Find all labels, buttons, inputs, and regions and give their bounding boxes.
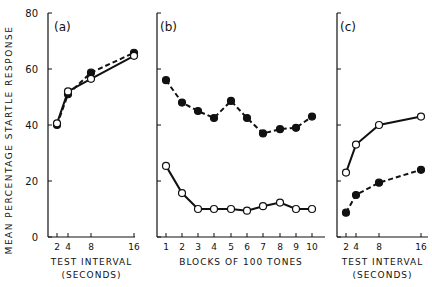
chart-figure: MEAN PERCENTAGE STARTLE RESPONSE02040608… [0, 0, 432, 287]
series-line-filled [166, 80, 312, 133]
y-tick-label: 40 [25, 120, 38, 131]
data-point-open [293, 206, 300, 213]
x-axis-label-units: (SECONDS) [352, 270, 412, 280]
chart-canvas: MEAN PERCENTAGE STARTLE RESPONSE02040608… [0, 0, 432, 287]
data-point-filled [260, 130, 267, 137]
data-point-filled [309, 113, 316, 120]
y-tick-label: 80 [25, 8, 38, 19]
data-point-filled [293, 124, 300, 131]
data-point-filled [353, 192, 360, 199]
y-tick-label: 0 [32, 232, 38, 243]
x-axis-label: TEST INTERVAL [50, 257, 132, 267]
data-point-open [353, 141, 360, 148]
data-point-open [131, 52, 138, 59]
x-tick-label: 1 [163, 242, 169, 252]
data-point-open [228, 206, 235, 213]
x-tick-label: 8 [277, 242, 283, 252]
data-point-open [54, 120, 61, 127]
data-point-filled [277, 126, 284, 133]
data-point-filled [418, 166, 425, 173]
data-point-open [309, 206, 316, 213]
x-tick-label: 2 [54, 242, 60, 252]
x-tick-label: 8 [88, 242, 94, 252]
x-tick-label: 9 [293, 242, 299, 252]
x-tick-label: 4 [211, 242, 217, 252]
x-axis-label: BLOCKS OF 100 TONES [179, 257, 303, 267]
x-tick-label: 3 [195, 242, 201, 252]
x-tick-label: 16 [415, 242, 427, 252]
x-tick-label: 2 [343, 242, 349, 252]
y-tick-label: 20 [25, 176, 38, 187]
data-point-open [65, 88, 72, 95]
x-tick-label: 2 [179, 242, 185, 252]
data-point-open [418, 113, 425, 120]
data-point-open [195, 206, 202, 213]
data-point-open [88, 75, 95, 82]
series-line-open [166, 166, 312, 211]
x-tick-label: 7 [260, 242, 266, 252]
data-point-open [179, 190, 186, 197]
data-point-filled [244, 115, 251, 122]
data-point-open [211, 206, 218, 213]
x-tick-label: 5 [228, 242, 234, 252]
data-point-filled [179, 99, 186, 106]
y-tick-label: 60 [25, 64, 38, 75]
y-axis-label: MEAN PERCENTAGE STARTLE RESPONSE [4, 26, 14, 255]
data-point-open [343, 169, 350, 176]
x-tick-label: 10 [306, 242, 318, 252]
data-point-filled [211, 115, 218, 122]
data-point-filled [195, 108, 202, 115]
x-axis-label-units: (SECONDS) [61, 270, 121, 280]
x-tick-label: 16 [128, 242, 140, 252]
data-point-open [260, 203, 267, 210]
panel-label: (c) [340, 20, 356, 34]
panel-label: (b) [160, 20, 177, 34]
data-point-open [277, 199, 284, 206]
data-point-open [244, 207, 251, 214]
data-point-open [163, 162, 170, 169]
panel-label: (a) [54, 20, 71, 34]
x-tick-label: 6 [244, 242, 250, 252]
data-point-filled [343, 209, 350, 216]
x-tick-label: 8 [376, 242, 382, 252]
x-tick-label: 4 [353, 242, 359, 252]
data-point-filled [376, 179, 383, 186]
data-point-filled [163, 77, 170, 84]
x-tick-label: 4 [65, 242, 71, 252]
x-axis-label: TEST INTERVAL [341, 257, 423, 267]
data-point-open [376, 122, 383, 129]
data-point-filled [228, 97, 235, 104]
